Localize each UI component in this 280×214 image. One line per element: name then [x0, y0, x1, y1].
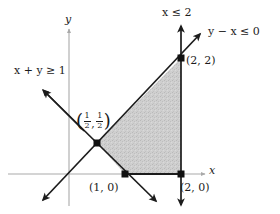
vertex-dot-half-half	[94, 140, 101, 147]
constraint-label-x-le-2: x ≤ 2	[162, 7, 191, 18]
vertex-dot-two-zero	[178, 171, 185, 178]
paren-close: )	[104, 112, 111, 130]
vertex-dot-one-zero	[122, 171, 129, 178]
fraction-one-half-second: 1 2	[96, 112, 103, 130]
x-axis-label: x	[209, 165, 215, 176]
vertex-label-two-zero: (2, 0)	[180, 182, 210, 193]
comma-separator: ,	[91, 118, 95, 129]
vertex-label-half-half: ( 1 2 , 1 2 )	[76, 112, 111, 130]
vertex-dot-two-two	[178, 55, 185, 62]
constraint-label-x-plus-y-ge-1: x + y ≥ 1	[14, 65, 66, 76]
vertex-label-two-two: (2, 2)	[186, 55, 216, 66]
constraint-label-y-minus-x-le-0: y − x ≤ 0	[208, 26, 260, 37]
paren-open: (	[76, 112, 83, 130]
y-axis-label: y	[65, 14, 71, 25]
fraction-one-half-first: 1 2	[84, 112, 91, 130]
feasible-region-diagram: y x x ≤ 2 y − x ≤ 0 x + y ≥ 1 ( 1 2 , 1 …	[0, 0, 280, 214]
vertex-label-one-zero: (1, 0)	[89, 182, 119, 193]
